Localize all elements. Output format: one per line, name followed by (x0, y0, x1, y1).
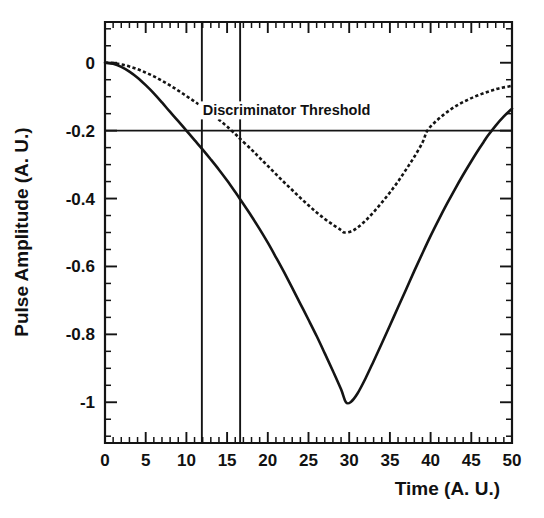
y-tick-label: -0.6 (66, 257, 95, 276)
chart-annotations: Discriminator Threshold (199, 101, 375, 119)
x-tick-label: 50 (503, 451, 522, 470)
y-axis-title: Pulse Amplitude (A. U.) (11, 127, 32, 336)
discriminator-threshold-label: Discriminator Threshold (203, 102, 371, 118)
y-tick-label: -0.4 (66, 190, 96, 209)
x-tick-label: 10 (177, 451, 196, 470)
x-tick-label: 25 (299, 451, 318, 470)
y-tick-label: 0 (86, 54, 95, 73)
x-tick-label: 20 (258, 451, 277, 470)
y-tick-label: -0.2 (66, 122, 95, 141)
x-tick-label: 5 (141, 451, 150, 470)
x-tick-label: 0 (100, 451, 109, 470)
x-tick-label: 30 (340, 451, 359, 470)
x-tick-label: 35 (380, 451, 399, 470)
y-tick-label: -1 (80, 393, 95, 412)
x-tick-label: 40 (421, 451, 440, 470)
x-tick-label: 15 (218, 451, 237, 470)
y-tick-label: -0.8 (66, 325, 95, 344)
x-axis-title: Time (A. U.) (395, 478, 500, 499)
pulse-amplitude-chart: 0-0.2-0.4-0.6-0.8-1 05101520253035404550… (0, 0, 544, 518)
x-tick-label: 45 (462, 451, 481, 470)
